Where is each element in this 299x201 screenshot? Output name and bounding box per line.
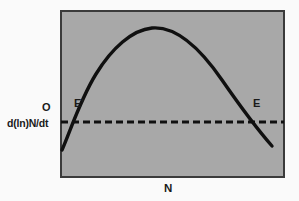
y-axis-label: d(ln)N/dt xyxy=(7,118,48,129)
equilibrium-label-e: E xyxy=(253,98,260,109)
figure-container: O d(ln)N/dt E' E N xyxy=(0,0,299,201)
origin-label: O xyxy=(42,102,51,113)
growth-rate-curve xyxy=(62,28,272,150)
equilibrium-label-e-prime: E' xyxy=(74,98,84,109)
x-axis-label: N xyxy=(164,183,172,195)
